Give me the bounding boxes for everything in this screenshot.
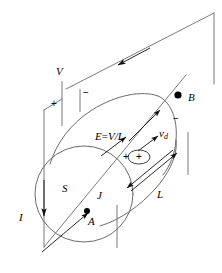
battery-negative-sign: − bbox=[83, 88, 89, 98]
current-density-label: J bbox=[97, 190, 102, 201]
charge-plus-sign: + bbox=[136, 152, 142, 162]
drift-velocity-label: vd bbox=[159, 128, 168, 141]
point-a-dot bbox=[84, 208, 90, 214]
battery-plates bbox=[62, 81, 80, 126]
current-label: I bbox=[19, 212, 23, 223]
length-dimension-line bbox=[127, 150, 177, 191]
wire-battery-right-stub bbox=[66, 86, 72, 89]
drift-velocity-subscript: d bbox=[164, 132, 168, 141]
upper-field-arrow bbox=[129, 110, 160, 141]
current-density-arrow bbox=[42, 213, 88, 252]
battery-positive-sign: + bbox=[51, 99, 57, 109]
conductor-body bbox=[35, 94, 176, 242]
field-plus-sign: + bbox=[123, 152, 129, 162]
wire-top-diagonal bbox=[72, 13, 214, 86]
cylinder-cross-section-circle bbox=[35, 146, 133, 242]
field-minus-sign: − bbox=[173, 114, 179, 124]
field-equation-rhs: V/L bbox=[108, 130, 124, 142]
figure-container: V + − I E=V/L + − + vd S J A B L bbox=[0, 0, 222, 273]
point-b-dot bbox=[174, 91, 181, 98]
electric-field-equation: E=V/L bbox=[95, 131, 124, 142]
drift-velocity-arrow bbox=[138, 136, 158, 151]
surface-label: S bbox=[62, 183, 68, 194]
length-label: L bbox=[157, 189, 163, 200]
length-dimension-ticks bbox=[117, 132, 188, 248]
point-a-label: A bbox=[88, 216, 95, 227]
top-wire-current-arrow bbox=[118, 48, 150, 65]
voltage-label: V bbox=[56, 66, 63, 77]
field-equation-lhs: E bbox=[95, 130, 102, 142]
point-b-label: B bbox=[188, 92, 195, 103]
